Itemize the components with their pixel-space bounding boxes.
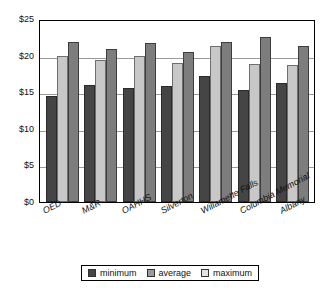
- bar-minimum[interactable]: [161, 86, 172, 202]
- bar-group: [84, 21, 117, 202]
- legend-item-average[interactable]: average: [147, 268, 192, 278]
- legend-label: maximum: [213, 268, 252, 278]
- bar-group: [199, 21, 232, 202]
- y-tick-label: $5: [2, 160, 34, 170]
- legend-item-maximum[interactable]: maximum: [201, 268, 252, 278]
- y-tick-label: $10: [2, 124, 34, 134]
- bar-maximum[interactable]: [68, 42, 79, 202]
- bar-minimum[interactable]: [46, 96, 57, 202]
- legend-label: minimum: [100, 268, 137, 278]
- bar-maximum[interactable]: [260, 37, 271, 202]
- legend-swatch-icon: [147, 269, 155, 277]
- bar-minimum[interactable]: [84, 85, 95, 202]
- bar-maximum[interactable]: [183, 52, 194, 202]
- bar-group: [238, 21, 271, 202]
- y-tick-label: $20: [2, 51, 34, 61]
- bar-average[interactable]: [172, 63, 183, 202]
- bar-maximum[interactable]: [145, 43, 156, 202]
- bar-maximum[interactable]: [221, 42, 232, 202]
- chart-container: $0$5$10$15$20$25 OEDM&ROAHHSSilvertonWil…: [0, 0, 334, 301]
- legend-swatch-icon: [88, 269, 96, 277]
- bar-average[interactable]: [134, 56, 145, 202]
- y-tick-label: $0: [2, 197, 34, 207]
- bar-group: [123, 21, 156, 202]
- legend-item-minimum[interactable]: minimum: [88, 268, 137, 278]
- bar-groups: [40, 21, 314, 202]
- bar-average[interactable]: [210, 46, 221, 202]
- bar-group: [46, 21, 79, 202]
- bar-average[interactable]: [95, 60, 106, 202]
- y-axis: $0$5$10$15$20$25: [0, 20, 36, 203]
- y-tick-label: $15: [2, 87, 34, 97]
- legend-label: average: [159, 268, 192, 278]
- bar-group: [161, 21, 194, 202]
- bar-average[interactable]: [57, 56, 68, 202]
- plot-area: [39, 20, 315, 203]
- legend-swatch-icon: [201, 269, 209, 277]
- x-axis-labels: OEDM&ROAHHSSilvertonWillamette FallsColu…: [39, 205, 315, 265]
- bar-minimum[interactable]: [123, 88, 134, 202]
- chart-legend: minimumaveragemaximum: [81, 265, 259, 281]
- y-tick-label: $25: [2, 14, 34, 24]
- bar-maximum[interactable]: [106, 49, 117, 202]
- bar-minimum[interactable]: [199, 76, 210, 202]
